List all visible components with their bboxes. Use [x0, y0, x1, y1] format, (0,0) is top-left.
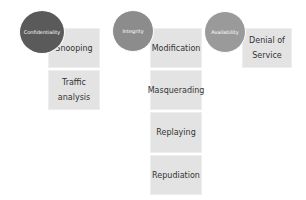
attack-modification: Modification — [150, 28, 202, 68]
attack-denial-of-service: Denial of Service — [242, 28, 292, 68]
attack-label: Modification — [152, 41, 201, 56]
goal-integrity: Integrity — [112, 10, 154, 52]
goal-label: Availability — [211, 29, 238, 35]
attack-label: Repudiation — [152, 168, 200, 183]
attack-label: Replaying — [156, 125, 195, 140]
goal-confidentiality: Confidentiality — [19, 10, 65, 54]
attack-label: Denial of Service — [247, 33, 287, 63]
attack-masquerading: Masquerading — [150, 70, 202, 110]
attack-repudiation: Repudiation — [150, 155, 202, 195]
goal-availability: Availability — [204, 11, 246, 53]
attack-traffic-analysis: Traffic analysis — [48, 70, 100, 110]
goal-label: Confidentiality — [24, 29, 60, 35]
attack-label: Traffic analysis — [57, 75, 91, 105]
attack-label: Masquerading — [148, 83, 205, 98]
attack-replaying: Replaying — [150, 112, 202, 153]
goal-label: Integrity — [122, 28, 143, 34]
